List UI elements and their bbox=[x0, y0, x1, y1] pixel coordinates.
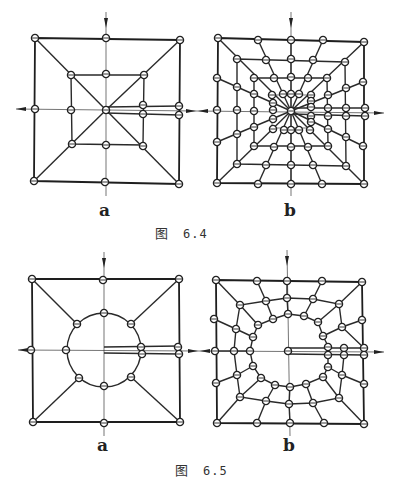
fig-6-5-panel-a bbox=[18, 252, 198, 436]
fig-6-4-panel-b bbox=[196, 12, 384, 196]
fig-6-4-caption: 图6.4 bbox=[155, 223, 208, 242]
fig-6-4-panel-b-label: b bbox=[284, 200, 296, 220]
arrow-left-icon bbox=[16, 107, 26, 111]
caption-prefix: 图 bbox=[155, 226, 169, 241]
fig-6-5-panel-a-label: a bbox=[97, 435, 108, 455]
arrow-top-icon bbox=[104, 18, 108, 28]
arrow-top-icon bbox=[285, 256, 289, 266]
arrow-top-icon bbox=[102, 258, 106, 268]
fig-6-5-panel-b bbox=[198, 250, 384, 436]
arrow-left-icon bbox=[198, 109, 208, 113]
caption-number: 6.5 bbox=[203, 464, 228, 478]
caption-prefix: 图 bbox=[175, 463, 189, 478]
arrow-left-icon bbox=[200, 349, 210, 353]
arrow-top-icon bbox=[289, 18, 293, 28]
arrow-right-icon bbox=[186, 109, 196, 113]
caption-number: 6.4 bbox=[183, 227, 208, 241]
fig-6-4-panel-a bbox=[16, 12, 196, 196]
arrow-left-icon bbox=[18, 348, 28, 352]
arrow-right-icon bbox=[188, 349, 198, 353]
fig-6-4-panel-a-label: a bbox=[99, 200, 110, 220]
arrow-right-icon bbox=[374, 350, 384, 354]
fig-6-5-caption: 图6.5 bbox=[175, 460, 228, 479]
fig-6-5-panel-b-label: b bbox=[283, 435, 295, 455]
arrow-right-icon bbox=[374, 111, 384, 115]
diagram-canvas bbox=[0, 0, 396, 484]
